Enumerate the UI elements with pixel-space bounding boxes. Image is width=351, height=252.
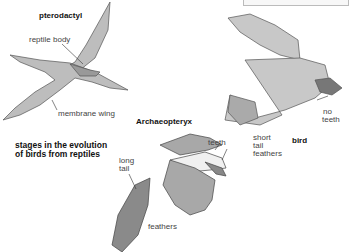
bird-title: bird (292, 136, 307, 145)
archaeopteryx-title: Archaeopteryx (136, 117, 192, 126)
label-reptile-body: reptile body (29, 35, 70, 44)
label-membrane-wing: membrane wing (58, 109, 115, 118)
label-teeth-bird: teeth (322, 115, 340, 124)
pterodactyl-title: pterodactyl (39, 11, 82, 20)
label-teeth: teeth (208, 138, 226, 147)
figure-caption-line-2: of birds from reptiles (15, 150, 100, 159)
archaeopteryx-illustration (112, 134, 226, 252)
label-feathers-bird: feathers (253, 149, 282, 158)
label-feathers: feathers (148, 222, 177, 231)
label-tail: tail (119, 164, 129, 173)
